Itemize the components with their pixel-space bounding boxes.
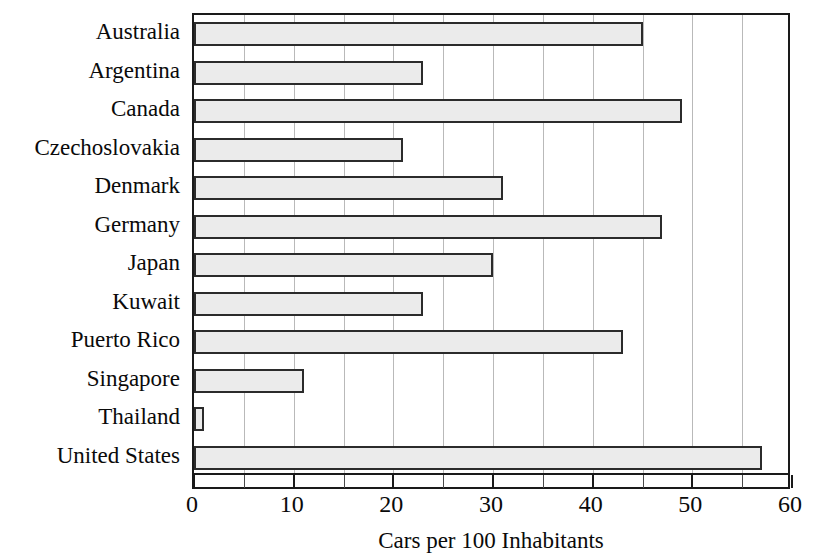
bar bbox=[194, 407, 204, 431]
gridline bbox=[543, 15, 544, 473]
category-label: Canada bbox=[0, 97, 180, 120]
bar bbox=[194, 292, 423, 316]
bar bbox=[194, 22, 643, 46]
category-label: Argentina bbox=[0, 59, 180, 82]
category-axis-labels: AustraliaArgentinaCanadaCzechoslovakiaDe… bbox=[0, 13, 180, 475]
bar bbox=[194, 61, 423, 85]
gridline bbox=[443, 15, 444, 473]
category-label: Singapore bbox=[0, 367, 180, 390]
x-tick-label: 10 bbox=[280, 491, 304, 518]
x-tick-label: 0 bbox=[186, 491, 198, 518]
category-label: United States bbox=[0, 444, 180, 467]
category-label: Australia bbox=[0, 20, 180, 43]
minor-tick bbox=[244, 475, 245, 488]
x-tick-label: 20 bbox=[379, 491, 403, 518]
major-tick bbox=[492, 475, 494, 488]
category-label: Germany bbox=[0, 213, 180, 236]
bar bbox=[194, 138, 403, 162]
bar bbox=[194, 215, 662, 239]
gridline bbox=[742, 15, 743, 473]
minor-tick bbox=[643, 475, 644, 488]
major-tick bbox=[691, 475, 693, 488]
category-label: Puerto Rico bbox=[0, 328, 180, 351]
bar bbox=[194, 99, 682, 123]
value-axis bbox=[192, 475, 790, 489]
x-axis-title: Cars per 100 Inhabitants bbox=[192, 528, 790, 554]
category-label: Thailand bbox=[0, 405, 180, 428]
bar bbox=[194, 176, 503, 200]
major-tick bbox=[293, 475, 295, 488]
plot-area bbox=[192, 13, 790, 475]
x-tick-label: 30 bbox=[479, 491, 503, 518]
minor-tick bbox=[443, 475, 444, 488]
minor-tick bbox=[344, 475, 345, 488]
major-tick bbox=[193, 475, 195, 488]
category-label: Kuwait bbox=[0, 290, 180, 313]
x-tick-label: 40 bbox=[579, 491, 603, 518]
category-label: Czechoslovakia bbox=[0, 136, 180, 159]
bar-chart-figure: AustraliaArgentinaCanadaCzechoslovakiaDe… bbox=[0, 0, 813, 560]
minor-tick bbox=[543, 475, 544, 488]
bar bbox=[194, 330, 623, 354]
major-tick bbox=[592, 475, 594, 488]
gridline bbox=[593, 15, 594, 473]
minor-tick bbox=[742, 475, 743, 488]
bar bbox=[194, 253, 493, 277]
x-tick-label: 60 bbox=[778, 491, 802, 518]
major-tick bbox=[791, 475, 793, 488]
gridline bbox=[643, 15, 644, 473]
bar bbox=[194, 446, 762, 470]
x-tick-label: 50 bbox=[678, 491, 702, 518]
category-label: Japan bbox=[0, 251, 180, 274]
bar bbox=[194, 369, 304, 393]
major-tick bbox=[392, 475, 394, 488]
category-label: Denmark bbox=[0, 174, 180, 197]
gridline bbox=[692, 15, 693, 473]
gridline bbox=[493, 15, 494, 473]
